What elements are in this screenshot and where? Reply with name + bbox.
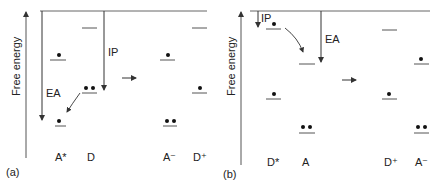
ea-label: EA (325, 33, 340, 45)
species-label: D* (267, 156, 280, 168)
species-label: A⁻ (163, 151, 176, 163)
species-label: A (302, 156, 310, 168)
panel-tag: (a) (6, 166, 19, 178)
species-label: D (87, 151, 95, 163)
electron-transfer-arrow (67, 93, 80, 112)
panel-tag: (b) (223, 168, 236, 180)
species-label: A⁻ (415, 156, 428, 168)
ip-label: IP (108, 46, 118, 58)
axis-label: Free energy (225, 36, 237, 96)
ea-label: EA (46, 87, 61, 99)
species-label: D⁺ (384, 156, 398, 168)
ip-label: IP (261, 12, 271, 24)
panel-a: Free energy EA IP A* D A⁻ (6, 11, 207, 178)
electron-transfer-arrow (285, 28, 303, 52)
energy-level-diagram: Free energy EA IP A* D A⁻ (0, 0, 445, 190)
species-label: D⁺ (193, 151, 207, 163)
species-label: A* (55, 151, 67, 163)
axis-label: Free energy (10, 36, 22, 96)
panel-b: Free energy IP EA D* A D⁺ (223, 11, 430, 180)
